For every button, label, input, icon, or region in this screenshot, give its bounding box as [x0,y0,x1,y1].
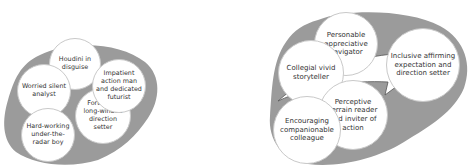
left-circle-hard-working: Hard-working under-the-radar boy [21,108,75,162]
left-circle-impatient: Impatient action man and dedicated futur… [92,59,146,113]
right-circle-inclusive: Inclusive affirming expectation and dire… [386,28,460,102]
circle-label: Collegial vivid storyteller [279,64,343,81]
right-circle-encouraging: Encouraging companionable colleague [273,96,341,164]
circle-label: Worried silent analyst [18,83,70,99]
diagram-canvas: Houdini in disguise Worried silent analy… [0,0,472,168]
circle-label: Impatient action man and dedicated futur… [93,70,145,101]
circle-label: Hard-working under-the-radar boy [22,123,74,146]
circle-label: Encouraging companionable colleague [274,117,340,143]
circle-label: Inclusive affirming expectation and dire… [387,52,459,78]
